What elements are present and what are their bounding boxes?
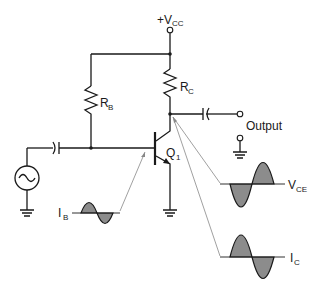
resistor-rb: R B (85, 86, 113, 148)
ic-label: I (290, 251, 293, 265)
ib-label-sub: B (63, 213, 68, 222)
source-ground-icon (20, 210, 34, 216)
supply-rail (91, 33, 170, 86)
q1-label-sub: 1 (176, 153, 181, 162)
emitter-ground-icon (163, 210, 177, 216)
q1-label: Q (166, 146, 175, 160)
input-capacitor (27, 142, 59, 154)
resistor-rc: R C (164, 69, 194, 114)
rb-label-sub: B (108, 103, 113, 112)
output-ground-icon (233, 141, 247, 158)
vce-waveform: V CE (220, 163, 307, 208)
vce-label: V (288, 178, 296, 192)
ac-source (15, 148, 39, 210)
ic-waveform: I C (220, 235, 300, 279)
ic-label-sub: C (294, 258, 300, 267)
output-ground-terminal (237, 135, 243, 141)
ib-pointer (120, 152, 145, 211)
vce-label-sub: CE (296, 185, 307, 194)
junction-base (89, 146, 93, 150)
output-terminal (237, 111, 243, 117)
amplifier-schematic: +V CC R B R C Output Q 1 (0, 0, 323, 292)
rc-label-sub: C (188, 87, 194, 96)
ib-label: I (58, 206, 61, 220)
vcc-label: +V (157, 13, 172, 27)
vce-pointer (173, 117, 220, 183)
junction-vcc (168, 52, 172, 56)
ib-waveform: I B (58, 203, 120, 224)
vcc-terminal: +V CC (157, 13, 184, 33)
ic-pointer (173, 117, 220, 256)
output-label: Output (246, 119, 283, 133)
vcc-label-sub: CC (172, 19, 184, 28)
